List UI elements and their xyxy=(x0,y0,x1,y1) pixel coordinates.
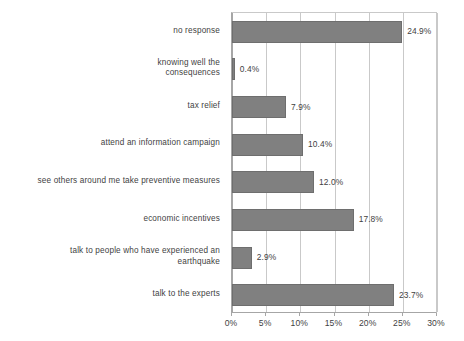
bar-value-label: 17.8% xyxy=(359,215,383,224)
category-label-line: see others around me take preventive mea… xyxy=(38,176,220,187)
category-label-line: talk to people who have experienced an xyxy=(70,246,220,257)
bar-value-label: 23.7% xyxy=(399,291,423,300)
bar xyxy=(232,284,394,306)
category-label-line: knowing well the xyxy=(158,58,220,69)
category-axis: no responseknowing well theconsequencest… xyxy=(0,12,226,313)
plot-area: 24.9%0.4%7.9%10.4%12.0%17.8%2.9%23.7% xyxy=(231,12,437,313)
bar xyxy=(232,209,354,231)
x-tick-mark xyxy=(265,313,266,316)
x-tick-label: 20% xyxy=(359,318,377,328)
bar xyxy=(232,21,402,43)
bar-value-label: 7.9% xyxy=(291,103,311,112)
category-label-line: talk to the experts xyxy=(153,289,220,300)
x-axis: 0%5%10%15%20%25%30% xyxy=(231,313,437,337)
bar xyxy=(232,171,314,193)
category-label-line: earthquake xyxy=(70,257,220,268)
bar-series: 24.9%0.4%7.9%10.4%12.0%17.8%2.9%23.7% xyxy=(232,13,436,312)
category-label-line: attend an information campaign xyxy=(101,138,220,149)
category-label: talk to the experts xyxy=(2,275,220,313)
category-label: no response xyxy=(2,12,220,50)
x-tick-mark xyxy=(231,313,232,316)
bar xyxy=(232,96,286,118)
x-tick-mark xyxy=(334,313,335,316)
category-label-line: no response xyxy=(173,26,220,37)
bar-value-label: 12.0% xyxy=(319,178,343,187)
bar-chart: no responseknowing well theconsequencest… xyxy=(0,0,464,341)
x-tick-mark xyxy=(299,313,300,316)
category-label-line: tax relief xyxy=(188,101,220,112)
bar-value-label: 10.4% xyxy=(308,140,332,149)
category-label-line: consequences xyxy=(158,68,220,79)
x-tick-label: 30% xyxy=(427,318,445,328)
bar xyxy=(232,58,235,80)
category-label: economic incentives xyxy=(2,200,220,238)
x-tick-label: 25% xyxy=(393,318,411,328)
bar-value-label: 24.9% xyxy=(407,27,431,36)
category-label: talk to people who have experienced anea… xyxy=(2,238,220,276)
gridline-30% xyxy=(437,13,438,312)
bar-value-label: 0.4% xyxy=(240,65,260,74)
x-tick-mark xyxy=(402,313,403,316)
category-label: tax relief xyxy=(2,87,220,125)
category-label: see others around me take preventive mea… xyxy=(2,163,220,201)
x-tick-label: 0% xyxy=(225,318,238,328)
bar xyxy=(232,134,303,156)
x-tick-label: 5% xyxy=(259,318,272,328)
category-label-line: economic incentives xyxy=(143,214,220,225)
category-label: knowing well theconsequences xyxy=(2,50,220,88)
x-tick-label: 10% xyxy=(291,318,309,328)
bar-value-label: 2.9% xyxy=(257,253,277,262)
x-tick-label: 15% xyxy=(325,318,343,328)
category-label: attend an information campaign xyxy=(2,125,220,163)
x-tick-mark xyxy=(368,313,369,316)
x-tick-mark xyxy=(436,313,437,316)
bar xyxy=(232,247,252,269)
